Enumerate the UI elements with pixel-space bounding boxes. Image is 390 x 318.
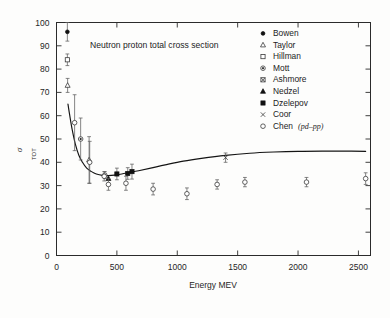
marker-open-triangle xyxy=(261,42,266,47)
series-coor xyxy=(223,153,227,162)
x-tick-label: 2500 xyxy=(349,262,368,272)
series-dzelepov xyxy=(115,164,134,180)
y-tick-label: 100 xyxy=(35,18,49,28)
y-tick-label: 40 xyxy=(40,157,50,167)
marker-open-circle xyxy=(185,191,190,196)
legend-label: Taylor xyxy=(273,40,296,50)
y-axis-tick-labels: 0102030405060708090100 xyxy=(35,18,49,261)
legend-label: Coor xyxy=(273,109,291,119)
figure-root: 05001000150020002500 0102030405060708090… xyxy=(0,0,390,318)
model-curve xyxy=(68,104,366,176)
x-axis-ticks xyxy=(117,23,359,256)
marker-filled-square xyxy=(261,101,265,105)
y-axis-ticks xyxy=(57,46,371,232)
y-tick-label: 20 xyxy=(40,204,50,214)
legend-label: Mott xyxy=(273,63,290,73)
marker-open-circle xyxy=(261,124,266,129)
series-chen-pd-pp xyxy=(72,95,368,200)
x-tick-label: 1000 xyxy=(168,262,187,272)
y-axis-title: σ TOT xyxy=(14,147,37,160)
marker-filled-circle xyxy=(65,30,69,34)
y-tick-label: 0 xyxy=(45,251,50,261)
series-mott xyxy=(78,118,107,179)
legend-item-hillman: Hillman xyxy=(261,51,301,61)
marker-open-circle xyxy=(72,120,77,125)
marker-open-square xyxy=(65,58,69,62)
legend-item-bowen: Bowen xyxy=(261,28,299,38)
plot-frame xyxy=(57,23,371,256)
legend: BowenTaylorHillmanMottAshmoreNedzelDzele… xyxy=(261,28,324,131)
y-tick-label: 30 xyxy=(40,181,50,191)
marker-open-circle xyxy=(87,160,92,165)
legend-label: Dzelepov xyxy=(273,98,309,108)
marker-open-circle xyxy=(243,180,248,185)
legend-label: Nedzel xyxy=(273,86,299,96)
legend-label: Bowen xyxy=(273,28,299,38)
legend-item-mott: Mott xyxy=(261,63,290,73)
x-axis-title: Energy MEV xyxy=(189,280,237,290)
y-tick-label: 80 xyxy=(40,64,50,74)
x-tick-label: 0 xyxy=(54,262,59,272)
legend-item-coor: Coor xyxy=(261,109,292,119)
series-taylor xyxy=(65,78,91,183)
marker-filled-triangle xyxy=(261,89,266,94)
marker-dotted-circle-dot xyxy=(262,67,264,69)
y-tick-label: 70 xyxy=(40,87,50,97)
legend-item-ashmore: Ashmore xyxy=(261,74,307,84)
x-tick-label: 2000 xyxy=(289,262,308,272)
series-bowen xyxy=(65,23,69,42)
chart-canvas: 05001000150020002500 0102030405060708090… xyxy=(0,0,390,318)
legend-label: Chen xyxy=(273,121,293,131)
marker-open-circle xyxy=(215,182,220,187)
y-tick-label: 10 xyxy=(40,227,50,237)
marker-open-square xyxy=(261,55,265,59)
marker-filled-square xyxy=(115,172,119,176)
x-axis-tick-labels: 05001000150020002500 xyxy=(54,262,368,272)
marker-filled-square xyxy=(126,171,130,175)
y-tick-label: 50 xyxy=(40,134,50,144)
y-tick-label: 60 xyxy=(40,111,50,121)
legend-label-italic: (pd–pp) xyxy=(298,122,324,131)
marker-open-circle xyxy=(102,174,107,179)
marker-open-circle xyxy=(124,181,129,186)
legend-item-dzelepov: Dzelepov xyxy=(261,98,309,108)
legend-item-taylor: Taylor xyxy=(261,40,296,50)
x-tick-label: 1500 xyxy=(228,262,247,272)
chart-title: Neutron proton total cross section xyxy=(90,40,219,50)
y-axis-title-subscript: TOT xyxy=(31,148,37,160)
marker-open-triangle xyxy=(65,83,70,88)
marker-open-circle xyxy=(363,176,368,181)
curve-path xyxy=(68,104,366,176)
legend-label: Hillman xyxy=(273,51,301,61)
marker-open-circle xyxy=(106,182,111,187)
marker-open-circle xyxy=(304,180,309,185)
marker-dotted-circle-dot xyxy=(80,138,82,140)
y-tick-label: 90 xyxy=(40,41,50,51)
legend-label: Ashmore xyxy=(273,74,307,84)
legend-item-nedzel: Nedzel xyxy=(261,86,300,96)
x-tick-label: 500 xyxy=(110,262,124,272)
marker-filled-circle xyxy=(261,32,265,36)
series-hillman xyxy=(65,54,69,66)
marker-filled-square xyxy=(130,170,134,174)
marker-open-circle xyxy=(151,187,156,192)
legend-item-chen: Chen(pd–pp) xyxy=(261,121,324,131)
y-axis-title-symbol: σ xyxy=(14,147,24,152)
